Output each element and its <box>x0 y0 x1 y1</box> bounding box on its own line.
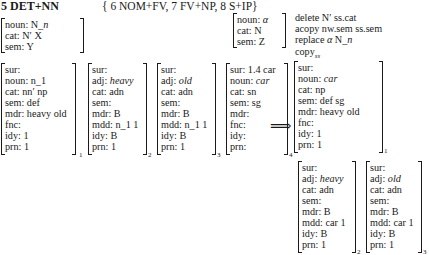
row-sur: sur: 1.4 car <box>230 64 283 75</box>
ss-noun: noun: N_n <box>5 19 79 30</box>
row-sur: sur: <box>161 64 211 75</box>
row-sem: sem: def sg <box>298 95 378 106</box>
rule-operations: delete N′ ss.cat acopy nw.sem ss.sem rep… <box>295 12 382 62</box>
row-idy: idy: B <box>161 130 211 141</box>
row-sur: sur: <box>92 64 142 75</box>
row-adj: adj: heavy <box>302 173 351 184</box>
output-index-2: 2 <box>357 247 361 255</box>
row-prn: prn: 1 <box>5 141 71 152</box>
output-proplet-1: sur: noun: car cat: np sem: def sg mdr: … <box>294 61 383 153</box>
row-sem: sem: <box>302 195 351 206</box>
ss-cat: cat: N′ X <box>5 30 79 41</box>
row-prn: prn: 1 <box>302 239 351 250</box>
nw-noun: noun: α <box>237 14 281 25</box>
row-idy: idy: 1 <box>5 130 71 141</box>
input-proplet-3: sur: adj: old cat: adn sem: mdr: B mdd: … <box>157 63 216 155</box>
row-prn: prn: <box>230 141 283 152</box>
nw-pattern-avm: noun: α cat: N sem: Z <box>233 13 286 48</box>
row-idy: idy: B <box>302 228 351 239</box>
row-noun: noun: n_1 <box>5 75 71 86</box>
row-sem: sem: <box>92 97 142 108</box>
rule-title: 5 DET+NN <box>1 1 59 12</box>
row-noun: noun: car <box>230 75 283 86</box>
row-sur: sur: <box>302 162 351 173</box>
row-cat: cat: adn <box>302 184 351 195</box>
ss-sem: sem: Y <box>5 41 79 52</box>
row-mdd: mdd: n_1 1 <box>92 119 142 130</box>
row-prn: prn: 1 <box>298 139 378 150</box>
row-mdd: mdd: car 1 <box>370 217 417 228</box>
row-adj: adj: old <box>370 173 417 184</box>
nw-cat: cat: N <box>237 25 281 36</box>
op-acopy: acopy nw.sem ss.sem <box>295 23 382 34</box>
row-fnc: fnc: <box>5 119 71 130</box>
row-sur: sur: <box>5 64 71 75</box>
op-copy: copyss <box>295 46 382 62</box>
row-noun: noun: car <box>298 73 378 84</box>
row-sur: sur: <box>298 62 378 73</box>
nw-sem: sem: Z <box>237 36 281 47</box>
row-sem: sem: def <box>5 97 71 108</box>
row-mdr: mdr: B <box>302 206 351 217</box>
output-proplet-2: sur: adj: heavy cat: adn sem: mdr: B mdd… <box>298 161 356 253</box>
input-proplet-1: sur: noun: n_1 cat: nn′ np sem: def mdr:… <box>1 63 76 155</box>
transition-arrow-icon: ⟹ <box>270 121 292 132</box>
output-proplet-3: sur: adj: old cat: adn sem: mdr: B mdd: … <box>366 161 422 253</box>
row-mdr: mdr: B <box>92 108 142 119</box>
row-mdr: mdr: B <box>161 108 211 119</box>
input-index-3: 3 <box>217 150 221 161</box>
row-idy: idy: B <box>370 228 417 239</box>
input-index-2: 2 <box>148 150 152 161</box>
row-cat: cat: adn <box>370 184 417 195</box>
rule-package: { 6 NOM+FV, 7 FV+NP, 8 S+IP} <box>102 1 258 12</box>
row-sur: sur: <box>370 162 417 173</box>
output-index-1: 1 <box>384 146 388 157</box>
row-prn: prn: 1 <box>92 141 142 152</box>
row-cat: cat: nn′ np <box>5 86 71 97</box>
output-index-3: 3 <box>423 247 427 255</box>
row-cat: cat: adn <box>92 86 142 97</box>
row-sem: sem: <box>370 195 417 206</box>
row-prn: prn: 1 <box>370 239 417 250</box>
row-sem: sem: <box>161 97 211 108</box>
input-index-4: 4 <box>289 150 293 161</box>
input-proplet-4: sur: 1.4 car noun: car cat: sn sem: sg m… <box>226 63 288 155</box>
row-mdr: mdr: B <box>370 206 417 217</box>
row-cat: cat: adn <box>161 86 211 97</box>
row-mdd: mdd: n_1 1 <box>161 119 211 130</box>
row-idy: idy: 1 <box>298 128 378 139</box>
row-prn: prn: 1 <box>161 141 211 152</box>
op-delete: delete N′ ss.cat <box>295 12 382 23</box>
row-cat: cat: sn <box>230 86 283 97</box>
row-mdr: mdr: heavy old <box>298 106 378 117</box>
input-proplet-2: sur: adj: heavy cat: adn sem: mdr: B mdd… <box>88 63 147 155</box>
row-mdr: mdr: heavy old <box>5 108 71 119</box>
ss-pattern-avm: noun: N_n cat: N′ X sem: Y <box>1 18 84 53</box>
row-cat: cat: np <box>298 84 378 95</box>
row-mdd: mdd: car 1 <box>302 217 351 228</box>
row-adj: adj: heavy <box>92 75 142 86</box>
op-replace: replace α N_n <box>295 34 382 45</box>
row-sem: sem: sg <box>230 97 283 108</box>
row-adj: adj: old <box>161 75 211 86</box>
input-index-1: 1 <box>79 150 83 161</box>
row-fnc: fnc: <box>298 117 378 128</box>
row-idy: idy: B <box>92 130 142 141</box>
